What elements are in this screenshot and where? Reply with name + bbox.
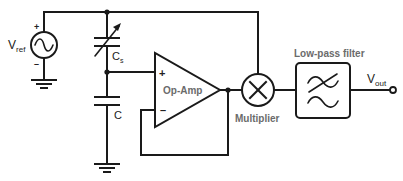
multiplier-icon: [242, 74, 274, 106]
source-plus-sign: +: [34, 22, 39, 32]
source-minus-sign: –: [34, 59, 39, 69]
top-wire: [44, 12, 258, 74]
low-pass-filter: Low-pass filter: [294, 48, 365, 118]
source-label: Vref: [8, 38, 26, 54]
voltage-source: + – Vref: [8, 22, 57, 69]
opamp-label: Op-Amp: [163, 85, 202, 96]
c-label: C: [114, 109, 122, 121]
capacitor: C: [95, 97, 122, 121]
junction-dot: [104, 69, 109, 74]
circuit-diagram: + – Vref Cs C + – Op-Amp: [0, 0, 403, 181]
opamp-plus-sign: +: [159, 67, 165, 79]
opamp-minus-sign: –: [160, 104, 166, 116]
low-pass-filter-icon: [296, 63, 350, 118]
low-pass-filter-label: Low-pass filter: [294, 48, 365, 59]
output-label: Vout: [367, 72, 387, 88]
ground-icon: [32, 80, 56, 88]
ground-icon: [95, 164, 119, 172]
multiplier-label: Multiplier: [235, 113, 280, 124]
junction-dot: [104, 9, 109, 14]
capacitor-icon: [95, 97, 119, 105]
multiplier: Multiplier: [235, 74, 280, 124]
op-amp: + – Op-Amp: [155, 53, 220, 127]
junction-dot: [225, 87, 230, 92]
output-terminal-icon: [390, 87, 396, 93]
variable-capacitor: Cs: [95, 23, 124, 64]
cs-label: Cs: [112, 50, 124, 64]
